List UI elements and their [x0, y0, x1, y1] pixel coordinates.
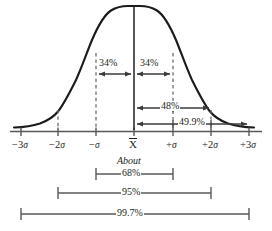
label-95-percent: 95% [121, 187, 141, 197]
label-48-percent: 48% [160, 101, 180, 111]
tick-label-minus-3-sigma: −3σ [12, 140, 28, 151]
label-99-7-percent: 99.7% [116, 208, 144, 218]
label-68-percent: 68% [121, 168, 141, 178]
label-34-percent-right: 34% [139, 58, 159, 68]
tick-label-mean: X [129, 139, 137, 150]
label-49-9-percent: 49.9% [178, 117, 206, 127]
label-34-percent-left: 34% [98, 58, 118, 68]
tick-label-minus-1-sigma: −σ [89, 140, 100, 151]
tick-label-plus-3-sigma: +3σ [240, 140, 256, 151]
label-about: About [117, 156, 141, 166]
normal-distribution-figure: 34% 34% 48% 49.9% −3σ −2σ −σ X +σ +2σ +3… [0, 0, 272, 231]
tick-label-plus-2-sigma: +2σ [202, 140, 218, 151]
tick-label-minus-2-sigma: −2σ [49, 140, 65, 151]
tick-label-plus-1-sigma: +σ [166, 140, 177, 151]
